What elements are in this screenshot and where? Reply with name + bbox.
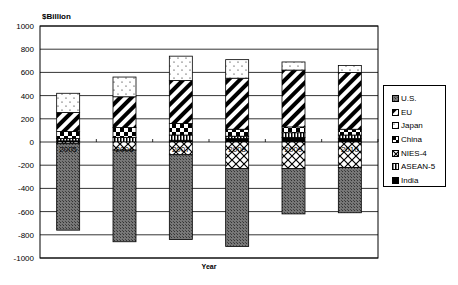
bar-segment-eu bbox=[57, 112, 80, 131]
y-tick-label: 200 bbox=[21, 115, 35, 124]
bar-segment-japan bbox=[226, 60, 249, 79]
y-tick-label: 1000 bbox=[16, 22, 34, 31]
legend-swatch-icon bbox=[392, 109, 399, 116]
bar-segment-japan bbox=[169, 56, 192, 80]
legend-item-eu: EU bbox=[392, 106, 445, 120]
bar-segment-india bbox=[338, 139, 361, 142]
x-axis-title: Year bbox=[202, 263, 217, 270]
bar-segment-u-s- bbox=[169, 155, 192, 240]
bar-segment-china bbox=[282, 127, 305, 133]
legend-swatch-icon bbox=[392, 122, 399, 129]
bar-segment-japan bbox=[113, 77, 136, 97]
legend-label: U.S. bbox=[401, 94, 417, 103]
bar-segment-china bbox=[226, 129, 249, 136]
bars: 200520062007200820092010 bbox=[57, 56, 378, 246]
legend-label: NIES-4 bbox=[401, 149, 427, 158]
bar-segment-asean-5 bbox=[282, 133, 305, 138]
y-tick-label: 400 bbox=[21, 92, 35, 101]
legend-label: EU bbox=[401, 108, 412, 117]
y-axis-unit-label: $Billion bbox=[42, 12, 71, 21]
legend-swatch-icon bbox=[392, 95, 399, 102]
legend: U.S.EUJapanChinaNIES-4ASEAN-5India bbox=[383, 85, 446, 187]
bar-segment-eu bbox=[113, 97, 136, 128]
bar-segment-japan bbox=[282, 62, 305, 70]
legend-item-u-s-: U.S. bbox=[392, 92, 445, 106]
bar-segment-india bbox=[226, 139, 249, 142]
bar-segment-u-s- bbox=[282, 169, 305, 214]
legend-label: China bbox=[401, 135, 422, 144]
legend-swatch-icon bbox=[392, 177, 399, 184]
bar-segment-u-s- bbox=[57, 144, 80, 230]
legend-label: India bbox=[401, 176, 418, 185]
y-axis-ticks: 10008006004002000-200-400-600-800-1000 bbox=[14, 22, 35, 263]
legend-swatch-icon bbox=[392, 163, 399, 170]
legend-label: ASEAN-5 bbox=[401, 162, 435, 171]
bar-segment-china bbox=[169, 123, 192, 135]
bar-segment-asean-5 bbox=[113, 137, 136, 142]
x-category-label: 2007 bbox=[172, 145, 190, 154]
y-tick-label: 0 bbox=[30, 138, 35, 147]
legend-item-asean-5: ASEAN-5 bbox=[392, 160, 445, 174]
bar-segment-india bbox=[282, 137, 305, 142]
legend-item-japan: Japan bbox=[392, 119, 445, 133]
y-tick-label: 800 bbox=[21, 45, 35, 54]
x-category-label: 2009 bbox=[285, 145, 303, 154]
x-category-label: 2006 bbox=[116, 145, 134, 154]
y-tick-label: -200 bbox=[18, 161, 35, 170]
y-tick-label: -600 bbox=[18, 208, 35, 217]
bar-segment-u-s- bbox=[338, 168, 361, 213]
bar-segment-u-s- bbox=[226, 169, 249, 247]
y-tick-label: -800 bbox=[18, 231, 35, 240]
bar-segment-japan bbox=[338, 65, 361, 72]
y-tick-label: 600 bbox=[21, 68, 35, 77]
y-tick-label: -1000 bbox=[14, 254, 35, 263]
bar-segment-eu bbox=[338, 72, 361, 129]
bar-segment-eu bbox=[282, 70, 305, 127]
bar-segment-asean-5 bbox=[338, 135, 361, 138]
legend-item-india: India bbox=[392, 174, 445, 188]
bar-segment-eu bbox=[169, 81, 192, 124]
bar-segment-china bbox=[57, 132, 80, 139]
x-category-label: 2005 bbox=[59, 145, 77, 154]
legend-swatch-icon bbox=[392, 136, 399, 143]
legend-label: Japan bbox=[401, 121, 423, 130]
legend-swatch-icon bbox=[392, 150, 399, 157]
bar-segment-china bbox=[338, 129, 361, 135]
bar-segment-eu bbox=[226, 78, 249, 129]
legend-item-china: China bbox=[392, 133, 445, 147]
x-category-label: 2010 bbox=[341, 145, 359, 154]
bar-segment-china bbox=[113, 128, 136, 138]
bar-segment-japan bbox=[57, 93, 80, 112]
legend-item-nies-4: NIES-4 bbox=[392, 146, 445, 160]
y-tick-label: -400 bbox=[18, 184, 35, 193]
bar-segment-asean-5 bbox=[169, 135, 192, 140]
x-category-label: 2008 bbox=[228, 145, 246, 154]
bar-segment-u-s- bbox=[113, 150, 136, 242]
